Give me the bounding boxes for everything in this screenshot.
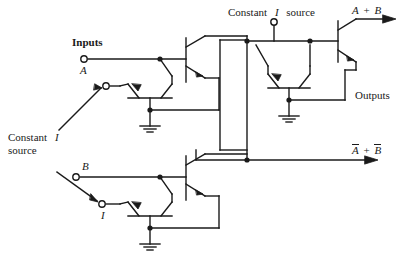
ground-symbol-center	[279, 116, 299, 122]
output-nor-label: A + B	[352, 144, 381, 157]
output-or-a: A	[352, 4, 359, 16]
switch-terminal-upper[interactable]	[103, 83, 109, 89]
output-or-b: B	[374, 4, 381, 16]
ground-symbol-lower	[140, 244, 160, 250]
circuit-schematic	[0, 0, 409, 273]
current-source-top-terminal[interactable]	[271, 19, 277, 25]
transistor-q2-upper-left	[128, 84, 172, 110]
wire-q3-emitter	[150, 196, 219, 228]
transistor-q3-lower-right	[186, 154, 205, 200]
outputs-heading: Outputs	[355, 89, 390, 102]
constant-word-top: Constant	[228, 6, 267, 18]
junction-dot-a-line	[157, 56, 162, 61]
output-nor-b: B	[374, 144, 381, 157]
pointer-line-upper	[59, 88, 101, 130]
switch-arm-upper	[110, 84, 128, 86]
junction-dot-lower-emitter	[147, 225, 152, 230]
wire-q4-to-input-b	[160, 177, 172, 202]
figure-canvas: Inputs A B I Constant I source Constant …	[0, 0, 409, 273]
wire-nor-output-rail	[196, 156, 378, 164]
wire-q1-emitter	[150, 78, 219, 110]
constant-source-left-label: Constant I source	[8, 131, 59, 157]
input-b-label: B	[82, 160, 89, 173]
current-i-label-left: I	[55, 131, 59, 143]
junction-dot-b-line	[157, 174, 162, 179]
input-a-label: A	[80, 64, 87, 77]
transistor-q6-output	[338, 19, 356, 62]
source-word-top: source	[286, 6, 315, 18]
wire-q2-to-input-a	[160, 59, 172, 84]
output-nor-plus: +	[363, 144, 369, 156]
wire-center-feedback	[289, 70, 345, 100]
source-word-left: source	[8, 144, 37, 156]
ground-symbol-upper	[140, 126, 160, 132]
constant-source-top-label: Constant I source	[228, 6, 315, 19]
output-or-label: A + B	[352, 4, 381, 17]
current-i-label-lower: I	[101, 209, 105, 222]
wire-q5-left-leg-to-source	[256, 45, 268, 74]
wire-q6-emitter-to-feedback	[345, 62, 356, 70]
switch-terminal-lower[interactable]	[99, 201, 105, 207]
transistor-q1-upper-right	[186, 36, 205, 82]
input-a-terminal[interactable]	[81, 56, 87, 62]
junction-dot-center-rail	[307, 38, 312, 43]
output-or-plus: +	[363, 4, 369, 16]
bus-vertical-inner	[220, 40, 247, 150]
output-nor-a: A	[352, 144, 359, 157]
transistor-q4-lower-left	[128, 202, 172, 228]
input-b-terminal[interactable]	[73, 174, 79, 180]
arrow-or-output	[383, 15, 396, 23]
arrow-nor-output	[365, 156, 378, 164]
inputs-heading: Inputs	[72, 36, 103, 49]
current-i-label-top: I	[275, 6, 279, 18]
transistor-q5-center-left	[268, 74, 310, 100]
junction-dot-upper-emitter	[147, 107, 152, 112]
switch-arm-lower	[106, 202, 128, 204]
constant-word-left: Constant	[8, 131, 47, 143]
